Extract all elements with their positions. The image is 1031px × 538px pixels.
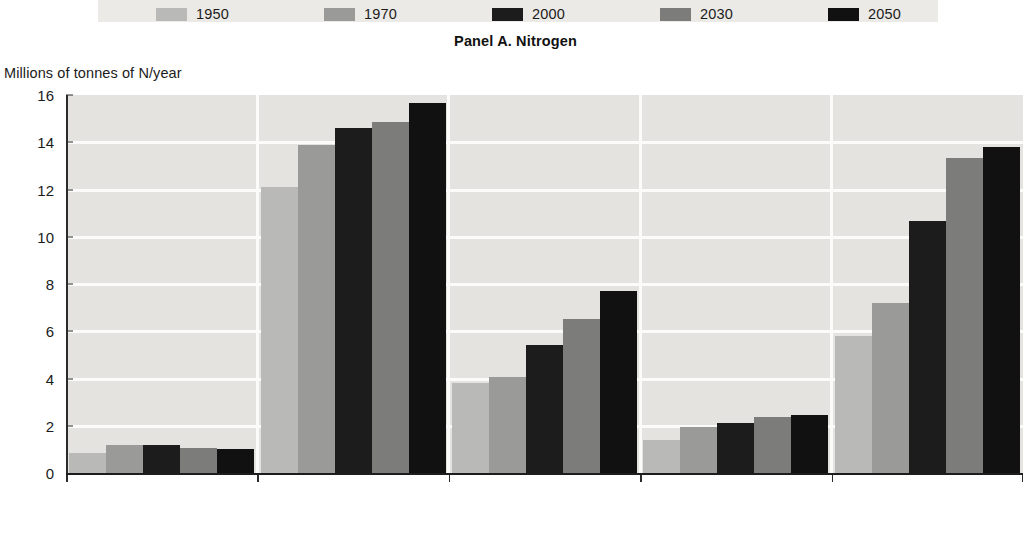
bar-groups — [66, 95, 1023, 473]
bar-2030[interactable] — [372, 122, 409, 473]
chart-page: 19501970200020302050 Panel A. Nitrogen M… — [0, 0, 1031, 538]
bar-group — [640, 95, 831, 473]
x-tick-mark — [66, 475, 68, 482]
legend-item-1970[interactable]: 1970 — [266, 8, 434, 21]
bar-1950[interactable] — [643, 440, 680, 473]
y-tick-label: 2 — [46, 417, 54, 434]
y-tick-label: 4 — [46, 370, 54, 387]
legend-label: 1950 — [196, 8, 229, 21]
x-tick-mark — [832, 475, 834, 482]
bar-2050[interactable] — [600, 291, 637, 473]
bar-2050[interactable] — [409, 103, 446, 473]
y-tick-label: 14 — [37, 134, 54, 151]
bar-2000[interactable] — [526, 345, 563, 473]
legend-item-1950[interactable]: 1950 — [98, 8, 266, 21]
bar-group — [66, 95, 257, 473]
bar-set — [643, 95, 828, 473]
bar-2030[interactable] — [180, 448, 217, 473]
bar-group — [449, 95, 640, 473]
bar-2000[interactable] — [717, 423, 754, 473]
legend-swatch-icon — [492, 8, 523, 21]
legend-item-2030[interactable]: 2030 — [602, 8, 770, 21]
x-tick-mark — [449, 475, 451, 482]
bar-2050[interactable] — [983, 147, 1020, 473]
x-tick-mark — [1022, 475, 1024, 482]
y-axis-ticks: 0246810121416 — [0, 95, 66, 473]
bar-2000[interactable] — [143, 445, 180, 473]
y-tick-label: 12 — [37, 181, 54, 198]
y-tick-label: 6 — [46, 323, 54, 340]
y-tick-label: 0 — [46, 465, 54, 482]
x-tick-mark — [640, 475, 642, 482]
x-axis-ticks — [66, 475, 1023, 482]
x-tick-mark — [257, 475, 259, 482]
bar-2030[interactable] — [563, 319, 600, 473]
bar-2000[interactable] — [909, 221, 946, 473]
y-tick-label: 10 — [37, 228, 54, 245]
bar-1970[interactable] — [489, 377, 526, 473]
legend-label: 2030 — [700, 8, 733, 21]
bar-1950[interactable] — [69, 453, 106, 473]
bar-1970[interactable] — [298, 145, 335, 473]
legend-swatch-icon — [156, 8, 187, 21]
legend-item-2000[interactable]: 2000 — [434, 8, 602, 21]
bar-2030[interactable] — [946, 158, 983, 473]
panel-title: Panel A. Nitrogen — [0, 33, 1031, 49]
legend-label: 1970 — [364, 8, 397, 21]
legend-swatch-icon — [324, 8, 355, 21]
legend-swatch-icon — [828, 8, 859, 21]
bar-set — [452, 95, 637, 473]
bar-1950[interactable] — [261, 187, 298, 473]
bar-2050[interactable] — [217, 449, 254, 473]
legend-item-2050[interactable]: 2050 — [770, 8, 938, 21]
bar-1970[interactable] — [872, 303, 909, 473]
legend-label: 2050 — [868, 8, 901, 21]
bar-1970[interactable] — [106, 445, 143, 473]
legend-label: 2000 — [532, 8, 565, 21]
bar-set — [69, 95, 254, 473]
bar-2030[interactable] — [754, 417, 791, 473]
y-tick-label: 16 — [37, 87, 54, 104]
chart-legend: 19501970200020302050 — [98, 0, 938, 22]
bar-set — [835, 95, 1020, 473]
plot-wrapper: 0246810121416 Arctic OceanAtlantic Ocean… — [0, 90, 1031, 482]
bar-1970[interactable] — [680, 427, 717, 473]
y-axis-caption: Millions of tonnes of N/year — [4, 65, 182, 81]
legend-swatch-icon — [660, 8, 691, 21]
bar-2000[interactable] — [335, 128, 372, 473]
bar-set — [261, 95, 446, 473]
bar-1950[interactable] — [835, 336, 872, 473]
bar-group — [257, 95, 448, 473]
bar-group — [832, 95, 1023, 473]
bar-1950[interactable] — [452, 383, 489, 473]
y-tick-label: 8 — [46, 276, 54, 293]
bar-2050[interactable] — [791, 415, 828, 473]
